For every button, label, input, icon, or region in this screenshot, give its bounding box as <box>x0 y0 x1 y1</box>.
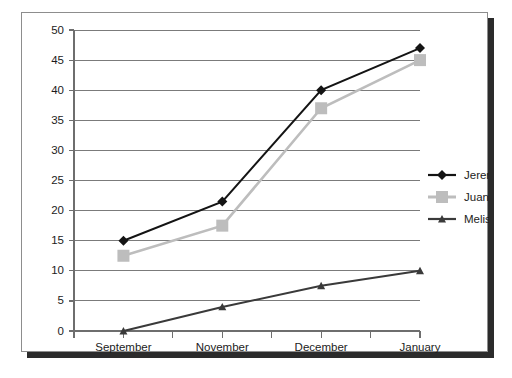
chart-legend: JeremyJuanMelissa <box>428 169 489 225</box>
gridlines <box>74 30 420 331</box>
x-tick-label: January <box>400 341 441 353</box>
series-jeremy <box>118 43 425 246</box>
series-juan <box>117 54 426 262</box>
legend-item-juan[interactable]: Juan <box>428 191 489 203</box>
diamond-marker <box>437 170 447 180</box>
y-tick-label: 40 <box>51 84 64 96</box>
square-marker <box>216 220 228 232</box>
legend-label: Melissa <box>464 213 489 225</box>
chart-figure-frame: 05101520253035404550 SeptemberNovemberDe… <box>21 12 488 352</box>
square-marker <box>436 191 448 203</box>
square-marker <box>414 54 426 66</box>
x-tick-label: December <box>295 341 348 353</box>
diamond-marker <box>118 236 128 246</box>
series-line <box>123 60 420 256</box>
series-line <box>123 48 420 241</box>
y-tick-label: 15 <box>51 234 64 246</box>
y-tick-label: 5 <box>58 294 64 306</box>
square-marker <box>117 250 129 262</box>
y-tick-label: 45 <box>51 54 64 66</box>
y-tick-label: 50 <box>51 24 64 36</box>
y-axis: 05101520253035404550 <box>51 24 74 337</box>
line-chart: 05101520253035404550 SeptemberNovemberDe… <box>22 13 489 353</box>
data-series <box>117 43 426 334</box>
legend-item-melissa[interactable]: Melissa <box>428 213 489 225</box>
y-tick-label: 10 <box>51 264 64 276</box>
legend-label: Jeremy <box>464 169 489 181</box>
y-tick-label: 0 <box>58 325 64 337</box>
legend-label: Juan <box>464 191 489 203</box>
x-tick-label: November <box>196 341 249 353</box>
y-tick-label: 30 <box>51 144 64 156</box>
y-tick-label: 25 <box>51 174 64 186</box>
square-marker <box>315 102 327 114</box>
x-axis: SeptemberNovemberDecemberJanuary <box>74 331 441 353</box>
legend-item-jeremy[interactable]: Jeremy <box>428 169 489 181</box>
diamond-marker <box>415 43 425 53</box>
y-tick-label: 20 <box>51 204 64 216</box>
x-tick-label: September <box>95 341 151 353</box>
y-tick-label: 35 <box>51 114 64 126</box>
